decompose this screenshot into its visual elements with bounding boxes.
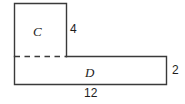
dimension-label-height-c: 4 xyxy=(70,23,77,35)
dimension-label-height-d: 2 xyxy=(172,64,179,76)
region-label-d: D xyxy=(85,66,94,79)
dimension-label-total-width: 12 xyxy=(84,87,97,99)
geometry-figure: C D 4 2 12 xyxy=(0,0,185,104)
region-label-c: C xyxy=(33,25,42,38)
